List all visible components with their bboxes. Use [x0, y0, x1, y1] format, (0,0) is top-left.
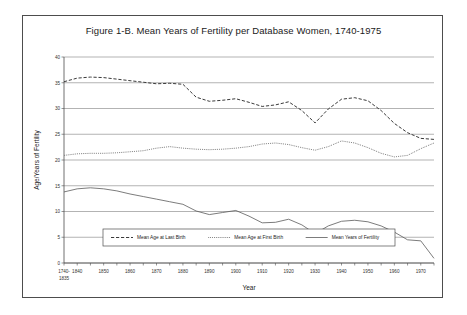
xtick-label-1920: 1920 — [284, 269, 295, 274]
legend-label-1: Mean Age at First Birth — [234, 235, 283, 240]
xtick-label-1970: 1970 — [416, 269, 427, 274]
ytick-label-15: 15 — [55, 184, 61, 189]
xtick-label-1900: 1900 — [231, 269, 242, 274]
ytick-label-40: 40 — [55, 55, 61, 60]
ytick-label-30: 30 — [55, 106, 61, 111]
ytick-label-35: 35 — [55, 81, 61, 86]
xtick-label-1910: 1910 — [257, 269, 268, 274]
y-axis-title: Age/Years of Fertility — [33, 129, 41, 189]
figure-frame: Figure 1-B. Mean Years of Fertility per … — [22, 15, 443, 298]
series-line-solid — [64, 188, 434, 259]
xtick-label-1930: 1930 — [310, 269, 321, 274]
xtick-label-1740-1835-line1: 1740- — [58, 269, 70, 274]
ytick-label-10: 10 — [55, 209, 61, 214]
xtick-label-1880: 1880 — [178, 269, 189, 274]
fertility-line-chart: 05101520253035401740-1835184018501860187… — [23, 16, 444, 299]
xtick-label-1960: 1960 — [389, 269, 400, 274]
legend-label-2: Mean Years of Fertility — [332, 235, 380, 240]
legend-label-0: Mean Age at Last Birth — [137, 235, 186, 240]
ytick-label-20: 20 — [55, 158, 61, 163]
ytick-label-5: 5 — [57, 235, 60, 240]
xtick-label-1870: 1870 — [151, 269, 162, 274]
xtick-label-1850: 1850 — [99, 269, 110, 274]
chart-plot-area: 05101520253035401740-1835184018501860187… — [23, 16, 444, 299]
ytick-label-0: 0 — [57, 261, 60, 266]
xtick-label-1840: 1840 — [72, 269, 83, 274]
x-axis-title: Year — [242, 284, 256, 291]
ytick-label-25: 25 — [55, 132, 61, 137]
xtick-label-1890: 1890 — [204, 269, 215, 274]
series-line-dotted — [64, 141, 434, 157]
xtick-label-1740-1835-line2: 1835 — [59, 276, 70, 281]
xtick-label-1940: 1940 — [336, 269, 347, 274]
xtick-label-1860: 1860 — [125, 269, 136, 274]
xtick-label-1950: 1950 — [363, 269, 374, 274]
